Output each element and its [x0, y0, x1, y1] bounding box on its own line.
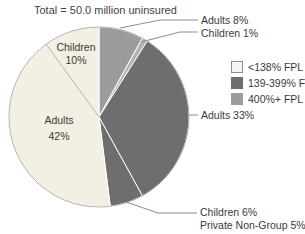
slice-label-children-10-pct: 10% — [46, 54, 106, 67]
legend-label-400-plus-fpl: 400%+ FPL — [248, 93, 303, 105]
callout-private-non-group: Private Non-Group 5% — [200, 219, 305, 231]
slice-label-children-10: Children 10% — [46, 41, 106, 67]
callout-line-children-6 — [126, 202, 197, 213]
callout-children-6: Children 6% — [200, 206, 257, 218]
legend-swatch-under-138-fpl — [231, 61, 243, 73]
slice-label-adults-42: Adults 42% — [29, 114, 89, 143]
callout-line-adults-8 — [120, 20, 198, 28]
legend-swatch-139-399-fpl — [231, 77, 243, 89]
callout-children-1: Children 1% — [201, 27, 258, 39]
callout-line-children-1 — [141, 32, 198, 42]
callout-adults-33: Adults 33% — [201, 109, 254, 121]
legend-label-139-399-fpl: 139-399% FPL — [248, 77, 305, 89]
chart-canvas: Total = 50.0 million uninsured Children … — [0, 0, 305, 234]
slice-label-children-10-name: Children — [46, 41, 106, 54]
legend-row-under-138-fpl: <138% FPL — [231, 59, 305, 75]
slice-label-adults-42-pct: 42% — [29, 130, 89, 143]
callout-adults-8: Adults 8% — [201, 14, 248, 26]
legend: <138% FPL 139-399% FPL 400%+ FPL — [231, 59, 305, 107]
legend-swatch-400-plus-fpl — [231, 93, 243, 105]
legend-label-under-138-fpl: <138% FPL — [248, 61, 303, 73]
slice-label-adults-42-name: Adults — [29, 114, 89, 127]
legend-row-139-399-fpl: 139-399% FPL — [231, 75, 305, 91]
legend-row-400-plus-fpl: 400%+ FPL — [231, 91, 305, 107]
